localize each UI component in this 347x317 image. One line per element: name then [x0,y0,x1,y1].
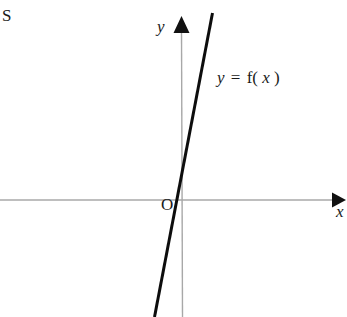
graph-figure: S y x O y = f( x ) [0,0,347,317]
coordinate-graph [0,0,347,317]
function-label-x: x [262,68,270,87]
x-axis-label: x [336,203,344,220]
function-label-f-open: f( [247,68,258,87]
y-axis-arrowhead-icon [174,16,190,33]
function-label-equals: = [229,68,243,87]
function-line [155,13,213,317]
y-axis-label: y [157,18,165,35]
function-label: y = f( x ) [217,69,280,86]
origin-label: O [161,196,173,213]
corner-letter: S [2,7,12,24]
function-label-y: y [217,68,225,87]
function-label-close-paren: ) [274,68,280,87]
